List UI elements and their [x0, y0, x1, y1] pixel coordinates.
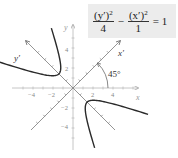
- numerator-base: (x′): [129, 9, 144, 21]
- angle-label: 45°: [108, 69, 121, 79]
- numerator-base: (y′): [94, 9, 109, 21]
- x-prime-axis: [31, 41, 120, 130]
- x-prime-label: x′: [117, 48, 125, 58]
- y-prime-label: y′: [13, 53, 21, 63]
- angle-arc: [98, 63, 108, 88]
- hyperbola-lower-branch: [85, 100, 148, 148]
- equals-one: = 1: [153, 15, 167, 27]
- equation-box: (y′)2 4 − (x′)2 1 = 1: [88, 4, 176, 38]
- minus-sign: −: [118, 15, 124, 27]
- y-tick-label: 2: [65, 65, 68, 72]
- x-tick-label: 2: [91, 91, 94, 98]
- x-axis-label: x: [135, 93, 140, 102]
- fraction-x-term: (x′)2 1: [128, 9, 149, 34]
- exponent: 2: [109, 9, 113, 17]
- denominator: 4: [101, 22, 107, 34]
- y-axis-label: y: [63, 23, 68, 32]
- hyperbola-figure: x y x′ y′ 45° −4 −2 2 4 4 2 −2 −4 (y′)2 …: [0, 0, 178, 158]
- fraction-y-term: (y′)2 4: [93, 9, 114, 34]
- y-tick-label: 4: [65, 46, 69, 53]
- x-tick-label: −2: [48, 91, 55, 98]
- denominator: 1: [136, 22, 142, 34]
- hyperbola-equation: (y′)2 4 − (x′)2 1 = 1: [92, 6, 170, 36]
- hyperbola-upper-branch: [0, 28, 61, 76]
- exponent: 2: [144, 9, 148, 17]
- y-tick-label: −4: [61, 123, 69, 130]
- x-tick-label: −4: [28, 91, 36, 98]
- x-tick-label: 4: [111, 91, 115, 98]
- y-tick-label: −2: [61, 104, 68, 111]
- y-prime-axis: [26, 41, 115, 130]
